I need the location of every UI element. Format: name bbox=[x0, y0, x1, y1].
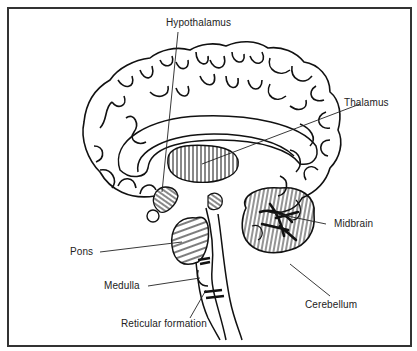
label-pons: Pons bbox=[70, 246, 93, 257]
pons-shape bbox=[172, 217, 209, 264]
label-thalamus: Thalamus bbox=[344, 97, 389, 108]
label-cerebellum: Cerebellum bbox=[305, 299, 357, 310]
hypothalamus-shape bbox=[153, 187, 178, 212]
midbrain-shape bbox=[208, 193, 222, 209]
label-medulla: Medulla bbox=[104, 280, 140, 291]
label-hypothalamus: Hypothalamus bbox=[166, 17, 231, 28]
pituitary-shape bbox=[147, 210, 159, 222]
label-midbrain: Midbrain bbox=[334, 218, 373, 229]
cerebellum-shape bbox=[242, 188, 314, 253]
label-reticular-formation: Reticular formation bbox=[121, 318, 207, 329]
cerebrum bbox=[83, 42, 341, 213]
